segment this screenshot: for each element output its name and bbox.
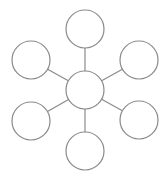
spoke-node-bottom-circle bbox=[66, 132, 104, 170]
edge-top-left bbox=[48, 69, 69, 81]
edge-top-right bbox=[102, 69, 123, 81]
spoke-node-top-left-circle bbox=[12, 41, 50, 79]
spoke-node-top-left bbox=[12, 41, 50, 79]
spoke-node-top-circle bbox=[66, 10, 104, 48]
edge-bottom-left bbox=[47, 99, 68, 111]
hub-node bbox=[66, 71, 104, 109]
spoke-node-top-right bbox=[120, 41, 158, 79]
spoke-node-top-right-circle bbox=[120, 41, 158, 79]
spoke-node-top bbox=[66, 10, 104, 48]
spoke-node-bottom-right bbox=[120, 101, 158, 139]
spoke-node-bottom-left bbox=[12, 102, 50, 140]
spoke-node-bottom-right-circle bbox=[120, 101, 158, 139]
nodes-group bbox=[12, 10, 158, 170]
edge-bottom-right bbox=[102, 99, 123, 111]
hub-and-spoke-diagram bbox=[0, 0, 168, 180]
hub-node-circle bbox=[66, 71, 104, 109]
spoke-node-bottom-left-circle bbox=[12, 102, 50, 140]
spoke-node-bottom bbox=[66, 132, 104, 170]
